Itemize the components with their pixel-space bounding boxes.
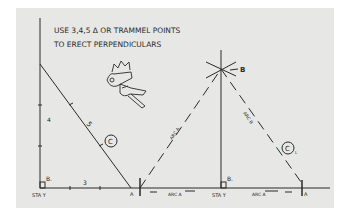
station-label-right: STA Y <box>212 192 227 198</box>
angle-label-left: B. <box>46 175 52 182</box>
station-label-left: STA Y <box>32 192 47 198</box>
base-arc-label-right: ARC A <box>252 192 267 197</box>
centerline-subscript-right: L <box>295 150 298 155</box>
right-triangle <box>140 50 302 196</box>
angle-label-right: B. <box>227 175 233 182</box>
note-line-2: TO ERECT PERPENDICULARS <box>53 40 162 49</box>
point-a-label-left: A <box>130 191 134 197</box>
point-b-label: B <box>240 66 245 74</box>
arc-line-right <box>221 69 301 182</box>
base-arc-label-left: ARC A <box>168 192 183 197</box>
side-5-label: 5 <box>84 120 93 129</box>
pointing-hand-icon <box>107 61 146 108</box>
side-4-label: 4 <box>47 116 51 123</box>
right-angle-mark-right <box>221 182 226 188</box>
point-a-label-right: A <box>304 191 308 197</box>
note-line-1: USE 3,4,5 Δ OR TRAMMEL POINTS <box>54 26 181 35</box>
arc-label-left: ARC A <box>169 126 181 141</box>
centerline-letter-right: C <box>285 145 290 153</box>
centerline-letter-left: C <box>108 138 113 146</box>
right-angle-mark-left <box>40 182 45 188</box>
perpendicular-diagram: USE 3,4,5 Δ OR TRAMMEL POINTS TO ERECT P… <box>0 0 354 219</box>
arc-line-left <box>140 69 221 188</box>
side-3-label: 3 <box>83 179 87 186</box>
